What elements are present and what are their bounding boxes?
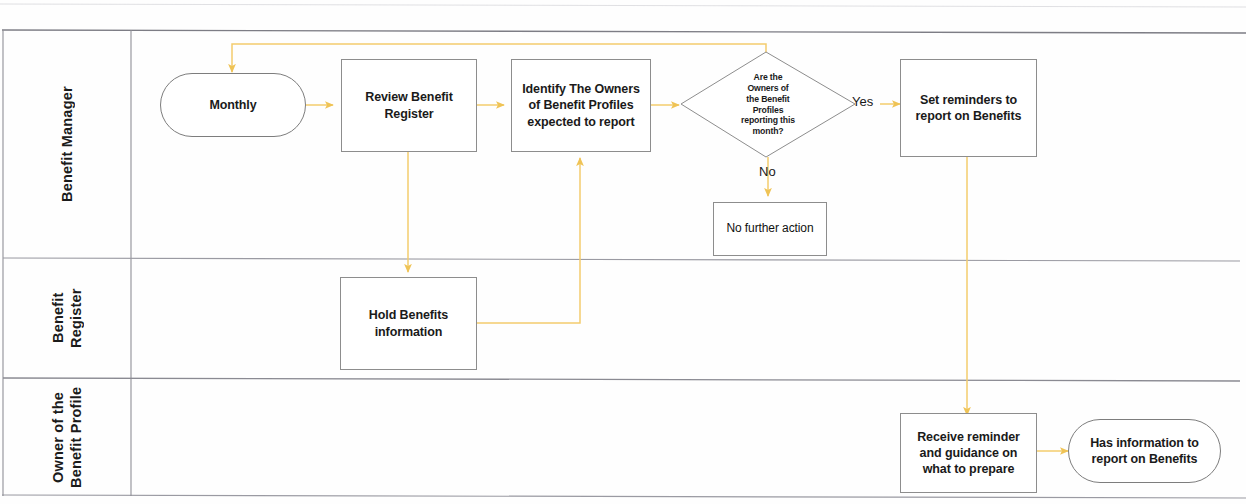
node-hold-benefits-information[interactable]: Hold Benefits information (340, 277, 477, 370)
node-monthly[interactable]: Monthly (160, 73, 306, 137)
node-label: Are the Owners of the Benefit Profiles r… (741, 72, 795, 138)
node-set-reminders[interactable]: Set reminders to report on Benefits (900, 59, 1037, 157)
node-has-information[interactable]: Has information to report on Benefits (1068, 419, 1221, 483)
lane-divider-2 (3, 378, 1240, 381)
node-label: Hold Benefits information (369, 307, 448, 340)
lane-label-text: Benefit Register (49, 288, 85, 348)
node-label: Monthly (209, 97, 256, 113)
lane-label-text: Owner of the Benefit Profile (49, 386, 85, 487)
node-owners-reporting-decision[interactable]: Are the Owners of the Benefit Profiles r… (681, 52, 855, 157)
edge-label-text: No (759, 164, 776, 179)
node-review-benefit-register[interactable]: Review Benefit Register (341, 59, 477, 152)
swimlane-diagram-canvas: Benefit Manager Benefit Register Owner o… (0, 0, 1246, 504)
node-receive-reminder[interactable]: Receive reminder and guidance on what to… (900, 413, 1037, 493)
node-label: Review Benefit Register (365, 89, 453, 122)
node-label: Identify The Owners of Benefit Profiles … (522, 81, 640, 130)
lane-label-benefit-manager: Benefit Manager (3, 30, 131, 258)
lane-label-owner-of-the-benefit-profile: Owner of the Benefit Profile (3, 378, 131, 496)
node-no-further-action[interactable]: No further action (713, 202, 827, 256)
node-label-wrap: Are the Owners of the Benefit Profiles r… (681, 52, 855, 157)
node-identify-owners[interactable]: Identify The Owners of Benefit Profiles … (511, 59, 651, 152)
lane-label-benefit-register: Benefit Register (3, 258, 131, 378)
scan-artifact-line (0, 4, 1246, 7)
lane-label-text: Benefit Manager (58, 86, 76, 202)
connector-hold-benefits-to-identify (477, 158, 580, 323)
node-label: No further action (726, 221, 813, 237)
edge-label-no: No (759, 164, 776, 179)
lane-divider-1 (3, 258, 1240, 261)
node-label: Has information to report on Benefits (1090, 435, 1199, 468)
edge-label-yes: Yes (852, 94, 873, 109)
edge-label-text: Yes (852, 94, 873, 109)
node-label: Receive reminder and guidance on what to… (917, 429, 1020, 478)
node-label: Set reminders to report on Benefits (916, 92, 1022, 125)
